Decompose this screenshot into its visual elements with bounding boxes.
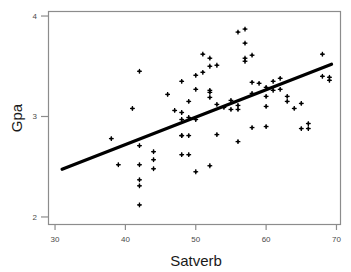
data-point-marker <box>292 106 297 111</box>
data-point-marker <box>320 52 325 57</box>
data-point-marker <box>320 74 325 79</box>
y-tick-label: 4 <box>33 12 38 21</box>
data-point-marker <box>137 183 142 188</box>
data-point-marker <box>250 53 255 58</box>
x-axis-ticks: 3040506070 <box>51 224 342 244</box>
data-point-marker <box>130 106 135 111</box>
data-point-marker <box>285 99 290 104</box>
data-point-marker <box>299 126 304 131</box>
data-point-marker <box>250 80 255 85</box>
data-point-marker <box>137 177 142 182</box>
x-tick-label: 60 <box>262 235 271 244</box>
x-tick-label: 40 <box>121 235 130 244</box>
data-point-marker <box>278 76 283 81</box>
data-point-marker <box>229 107 234 112</box>
data-point-marker <box>285 94 290 99</box>
data-point-marker <box>271 79 276 84</box>
data-point-marker <box>151 157 156 162</box>
data-point-marker <box>243 41 248 46</box>
data-point-marker <box>257 81 262 86</box>
data-point-marker <box>116 162 121 167</box>
data-point-marker <box>200 70 205 75</box>
data-point-marker <box>151 166 156 171</box>
data-point-marker <box>186 133 191 138</box>
data-point-marker <box>250 125 255 130</box>
y-tick-label: 3 <box>33 112 38 121</box>
data-point-marker <box>165 92 170 97</box>
data-point-marker <box>214 132 219 137</box>
data-point-marker <box>236 30 241 35</box>
data-point-marker <box>186 99 191 104</box>
scatter-plot-figure: 3040506070 234 Satverb Gpa <box>0 0 351 272</box>
data-point-marker <box>179 79 184 84</box>
x-tick-label: 30 <box>51 235 60 244</box>
data-point-marker <box>207 163 212 168</box>
data-points-group <box>109 27 332 208</box>
data-point-marker <box>137 143 142 148</box>
data-point-marker <box>179 110 184 115</box>
data-point-marker <box>186 152 191 157</box>
plot-canvas: 3040506070 234 Satverb Gpa <box>0 0 351 272</box>
data-point-marker <box>207 95 212 100</box>
data-point-marker <box>151 149 156 154</box>
regression-line <box>62 64 331 169</box>
data-point-marker <box>236 139 241 144</box>
x-tick-label: 70 <box>332 235 341 244</box>
data-point-marker <box>193 169 198 174</box>
data-point-marker <box>214 102 219 107</box>
y-tick-label: 2 <box>33 213 38 222</box>
data-point-marker <box>264 94 269 99</box>
data-point-marker <box>214 63 219 68</box>
x-tick-label: 50 <box>191 235 200 244</box>
data-point-marker <box>299 101 304 106</box>
data-point-marker <box>137 203 142 208</box>
data-point-marker <box>137 162 142 167</box>
data-point-marker <box>193 87 198 92</box>
data-point-marker <box>179 152 184 157</box>
data-point-marker <box>193 73 198 78</box>
data-point-marker <box>306 121 311 126</box>
data-point-marker <box>243 59 248 64</box>
data-point-marker <box>109 136 114 141</box>
data-point-marker <box>137 69 142 74</box>
data-point-marker <box>327 78 332 83</box>
data-point-marker <box>306 126 311 131</box>
data-point-marker <box>172 108 177 113</box>
data-point-marker <box>264 124 269 129</box>
data-point-marker <box>264 104 269 109</box>
y-axis-title: Gpa <box>8 103 25 132</box>
regression-line-group <box>62 64 331 169</box>
data-point-marker <box>207 64 212 69</box>
data-point-marker <box>200 52 205 57</box>
y-axis-ticks: 234 <box>33 12 48 222</box>
data-point-marker <box>243 27 248 32</box>
data-point-marker <box>179 133 184 138</box>
data-point-marker <box>236 107 241 112</box>
data-point-marker <box>278 87 283 92</box>
data-point-marker <box>207 56 212 61</box>
x-axis-title: Satverb <box>170 252 222 269</box>
